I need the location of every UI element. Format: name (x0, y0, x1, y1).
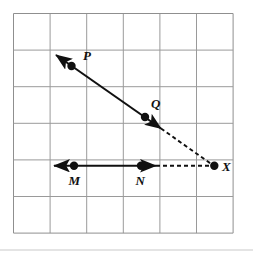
figure-background (0, 0, 253, 258)
point-label-p: P (83, 48, 92, 63)
point-q (141, 113, 149, 121)
point-label-m: M (68, 173, 81, 188)
point-m (70, 162, 78, 170)
point-label-n: N (135, 173, 146, 188)
point-p (67, 62, 75, 70)
point-x (210, 162, 218, 170)
geometry-figure: PQMNX (0, 0, 253, 258)
point-label-x: X (221, 159, 231, 174)
point-label-q: Q (151, 96, 161, 111)
geometry-canvas: PQMNX (0, 0, 253, 258)
point-n (137, 162, 145, 170)
